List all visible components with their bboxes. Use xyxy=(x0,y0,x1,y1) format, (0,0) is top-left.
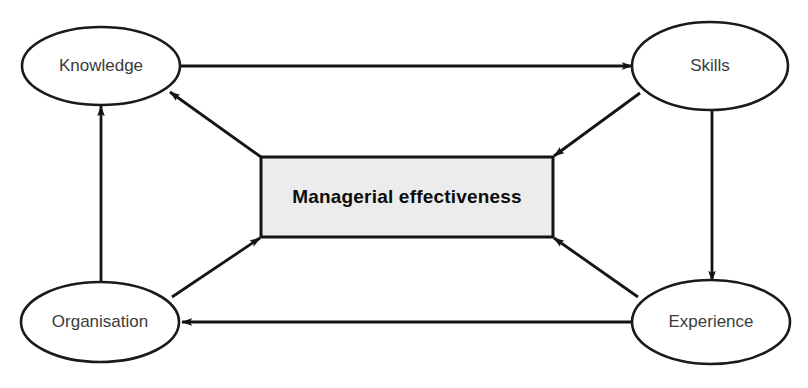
edge-experience-to-box xyxy=(554,238,638,297)
node-knowledge-label: Knowledge xyxy=(59,56,143,75)
diagram-canvas: Managerial effectiveness Knowledge Skill… xyxy=(0,0,808,388)
center-box-label: Managerial effectiveness xyxy=(292,186,522,207)
edge-skills-to-box xyxy=(554,93,640,156)
edge-organisation-to-box xyxy=(172,238,260,297)
node-experience-label: Experience xyxy=(668,312,753,331)
center-box: Managerial effectiveness xyxy=(261,157,553,237)
node-knowledge: Knowledge xyxy=(22,27,180,105)
managerial-effectiveness-diagram: Managerial effectiveness Knowledge Skill… xyxy=(0,0,808,388)
node-skills: Skills xyxy=(632,22,788,110)
node-skills-label: Skills xyxy=(690,56,730,75)
node-experience: Experience xyxy=(632,280,790,364)
node-organisation-label: Organisation xyxy=(52,312,148,331)
node-organisation: Organisation xyxy=(21,282,179,362)
edge-box-to-knowledge xyxy=(170,92,261,157)
